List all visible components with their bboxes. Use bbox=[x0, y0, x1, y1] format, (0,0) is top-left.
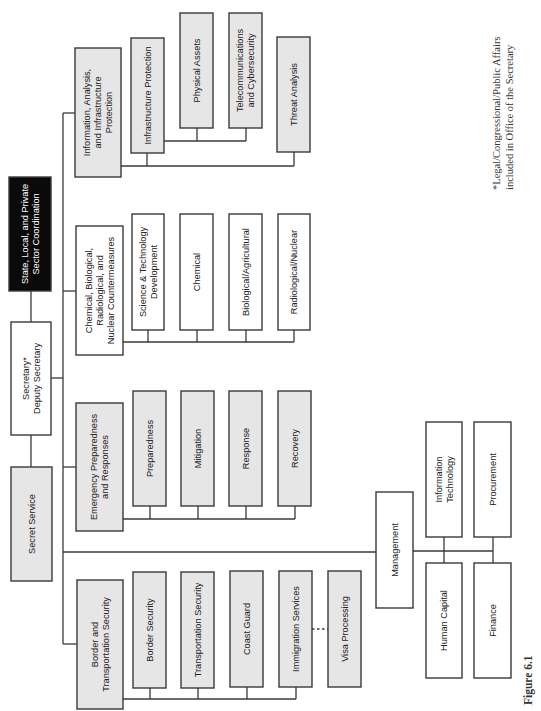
box-label-line: Telecommunications bbox=[235, 28, 245, 112]
box-label: Physical Assets bbox=[192, 38, 202, 102]
box-label: Recovery bbox=[290, 429, 300, 468]
org-box-bts: Border andTransportation Security bbox=[77, 580, 123, 709]
box-label: Threat Analysis bbox=[289, 63, 299, 126]
box-label-line: Procurement bbox=[488, 453, 498, 506]
org-box-infrastructure-protection: Infrastructure Protection bbox=[131, 38, 164, 153]
box-label-line: Biological/Agricultural bbox=[241, 228, 251, 316]
box-label-line: Development bbox=[149, 244, 159, 299]
box-label-line: Border Security bbox=[145, 598, 155, 662]
box-label-line: Human Capital bbox=[439, 590, 449, 651]
box-label-line: Secretary* bbox=[21, 357, 31, 400]
org-box-threat-analysis: Threat Analysis bbox=[277, 37, 310, 152]
box-label: Radiological/Nuclear bbox=[289, 230, 299, 314]
box-label: Infrastructure Protection bbox=[143, 46, 153, 144]
footnote: *Legal/Congressional/Public Affairs incl… bbox=[491, 34, 515, 190]
org-box-procurement: Procurement bbox=[474, 422, 511, 537]
org-box-immigration-services: Immigration Services bbox=[279, 571, 312, 687]
box-label-line: Nuclear Countermeasures bbox=[106, 236, 116, 344]
box-label-line: Finance bbox=[488, 604, 498, 637]
box-label: Coast Guard bbox=[242, 603, 252, 655]
box-label: Transportation Security bbox=[193, 582, 203, 677]
figure-label: Figure 6.1 bbox=[522, 655, 535, 705]
box-label: Mitigation bbox=[193, 429, 203, 468]
box-label-line: Transportation Security bbox=[101, 597, 111, 692]
org-box-mitigation: Mitigation bbox=[181, 391, 214, 506]
org-box-info-tech: InformationTechnology bbox=[426, 422, 462, 537]
box-label-line: Information, Analysis, bbox=[82, 69, 92, 156]
box-label-line: Protection bbox=[104, 92, 114, 133]
footnote-line-2: included in Office of the Secretary bbox=[504, 44, 515, 190]
box-label-line: Immigration Services bbox=[291, 586, 301, 672]
box-label-line: Information bbox=[434, 457, 444, 503]
footnote-line-1: *Legal/Congressional/Public Affairs bbox=[491, 37, 502, 191]
org-box-coast-guard: Coast Guard bbox=[230, 571, 263, 687]
org-box-physical-assets: Physical Assets bbox=[180, 13, 213, 128]
org-box-secret-service: Secret Service bbox=[11, 467, 52, 581]
org-chart: Secretary*Deputy SecretaryState, Local, … bbox=[0, 0, 541, 711]
box-label-line: Transportation Security bbox=[193, 582, 203, 677]
box-label-line: and Responses bbox=[100, 435, 110, 499]
box-label: Procurement bbox=[488, 453, 498, 506]
box-label-line: Response bbox=[241, 428, 251, 469]
box-label: Visa Processing bbox=[340, 596, 350, 662]
org-box-chemical: Chemical bbox=[180, 214, 213, 330]
org-box-recovery: Recovery bbox=[278, 391, 311, 506]
org-box-visa-processing: Visa Processing bbox=[328, 571, 361, 687]
org-box-iaip: Information, Analysis,and Infrastructure… bbox=[75, 48, 121, 177]
box-label: Immigration Services bbox=[291, 586, 301, 672]
box-label: Telecommunicationsand Cybersecurity bbox=[235, 28, 256, 112]
org-box-cbrn: Chemical, Biological,Radiological, andNu… bbox=[76, 226, 123, 355]
org-box-response: Response bbox=[229, 391, 262, 506]
org-box-telecom-cyber: Telecommunicationsand Cybersecurity bbox=[229, 13, 262, 128]
box-label-line: Border and bbox=[90, 622, 100, 667]
box-label: Chemical bbox=[192, 253, 202, 291]
box-label: Human Capital bbox=[439, 590, 449, 651]
box-label: Preparedness bbox=[145, 419, 155, 477]
box-label: InformationTechnology bbox=[434, 456, 455, 503]
org-box-sci-tech-dev: Science & TechnologyDevelopment bbox=[132, 214, 164, 330]
box-label: Response bbox=[241, 428, 251, 469]
box-label-line: Secret Service bbox=[27, 494, 37, 554]
org-box-border-security: Border Security bbox=[133, 572, 166, 688]
box-label-line: and Infrastructure bbox=[93, 76, 103, 148]
box-label-line: Emergency Preparedness bbox=[89, 413, 99, 520]
org-box-management: Management bbox=[376, 492, 413, 608]
box-label-line: and Cybersecurity bbox=[246, 33, 256, 107]
box-label-line: Deputy Secretary bbox=[32, 343, 42, 414]
box-label-line: State, Local, and Private bbox=[20, 184, 30, 284]
box-label: Secret Service bbox=[27, 494, 37, 554]
box-label-line: Coast Guard bbox=[242, 603, 252, 655]
org-box-rad-nuclear: Radiological/Nuclear bbox=[278, 214, 310, 330]
box-label-line: Chemical bbox=[192, 253, 202, 291]
box-label: Biological/Agricultural bbox=[241, 228, 251, 316]
box-label-line: Technology bbox=[445, 456, 455, 503]
org-box-secretary: Secretary*Deputy Secretary bbox=[11, 322, 51, 435]
box-label-line: Threat Analysis bbox=[289, 63, 299, 126]
org-box-bio-ag: Biological/Agricultural bbox=[229, 214, 262, 330]
box-label-line: Preparedness bbox=[145, 419, 155, 477]
org-box-state-local-private: State, Local, and PrivateSector Coordina… bbox=[9, 177, 51, 291]
box-label-line: Physical Assets bbox=[192, 38, 202, 102]
box-label: Management bbox=[390, 523, 400, 577]
box-label-line: Sector Coordination bbox=[31, 193, 41, 274]
org-box-human-capital: Human Capital bbox=[426, 563, 462, 678]
box-label-line: Management bbox=[390, 523, 400, 577]
org-box-preparedness: Preparedness bbox=[133, 391, 166, 506]
org-box-epr: Emergency Preparednessand Responses bbox=[76, 403, 123, 531]
box-label-line: Visa Processing bbox=[340, 596, 350, 662]
box-label-line: Radiological, and bbox=[95, 255, 105, 326]
box-label-line: Science & Technology bbox=[138, 226, 148, 317]
box-label: State, Local, and PrivateSector Coordina… bbox=[20, 184, 41, 284]
box-label-line: Recovery bbox=[290, 429, 300, 468]
org-boxes: Secretary*Deputy SecretaryState, Local, … bbox=[9, 13, 511, 709]
box-label-line: Infrastructure Protection bbox=[143, 46, 153, 144]
box-label-line: Mitigation bbox=[193, 429, 203, 468]
box-label: Border Security bbox=[145, 598, 155, 662]
org-box-finance: Finance bbox=[474, 563, 511, 678]
box-label: Finance bbox=[488, 604, 498, 637]
box-label-line: Chemical, Biological, bbox=[84, 248, 94, 333]
box-label-line: Radiological/Nuclear bbox=[289, 230, 299, 314]
org-box-transportation-security: Transportation Security bbox=[181, 572, 214, 688]
